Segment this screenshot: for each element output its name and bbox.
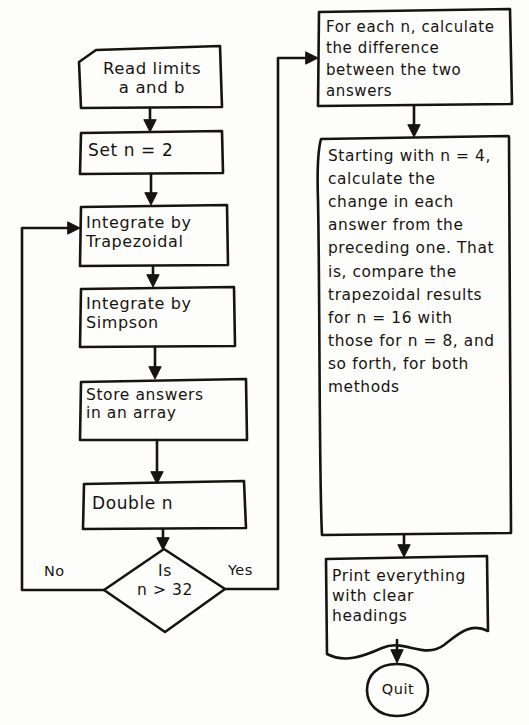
shape-quit xyxy=(367,664,428,716)
shape-changes xyxy=(318,136,511,535)
shape-print xyxy=(326,556,488,658)
shape-integrate-trapezoidal xyxy=(80,205,228,266)
edge-label-no: No xyxy=(44,563,65,579)
arrowhead-yes-path xyxy=(306,52,318,64)
arrowhead-changes-to-print xyxy=(398,545,410,557)
shape-integrate-simpson xyxy=(80,287,235,347)
arrowhead-difference-to-changes xyxy=(408,125,420,137)
shape-double-n xyxy=(83,481,246,529)
arrowhead-double-to-decision xyxy=(157,538,169,550)
arrowhead-print-to-quit xyxy=(391,650,403,663)
arrowhead-trap-to-simp xyxy=(147,275,159,287)
shape-difference xyxy=(318,9,512,106)
shape-set-n xyxy=(80,131,223,174)
shape-decision xyxy=(104,549,225,632)
edge-label-yes: Yes xyxy=(228,562,253,578)
arrowhead-read-to-setn xyxy=(144,120,156,132)
arrowhead-simp-to-store xyxy=(149,367,161,379)
flowchart-canvas: Read limits a and b Set n = 2 Integrate … xyxy=(0,0,529,725)
connector-no-loop xyxy=(22,228,104,590)
shape-store-answers xyxy=(80,379,247,440)
flowchart-sketch-layer xyxy=(0,0,529,725)
arrowhead-setn-to-trap xyxy=(145,193,157,205)
arrowhead-no-loop xyxy=(68,222,80,234)
connector-yes-path xyxy=(225,58,312,589)
shape-read-limits xyxy=(79,46,222,108)
